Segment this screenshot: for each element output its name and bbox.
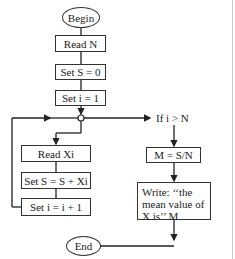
- write-output-box: Write: ‘‘the mean value of X is’’ M: [137, 182, 211, 220]
- accumulate-label: Set S = S + Xi: [24, 175, 87, 187]
- read-xi-box: Read Xi: [21, 145, 91, 162]
- accumulate-box: Set S = S + Xi: [21, 172, 91, 189]
- set-i-one-box: Set i = 1: [55, 90, 106, 106]
- begin-terminal: Begin: [62, 7, 100, 28]
- junction-node: [78, 115, 84, 121]
- read-n-label: Read N: [64, 38, 97, 50]
- compute-mean-label: M = S/N: [154, 149, 193, 161]
- decision-label: If i > N: [156, 112, 189, 124]
- end-label: End: [75, 240, 93, 252]
- read-xi-label: Read Xi: [38, 148, 74, 160]
- end-terminal: End: [66, 236, 101, 256]
- write-line-2: mean value of: [142, 198, 204, 210]
- write-line-1: Write: ‘‘the: [142, 186, 204, 198]
- set-s-zero-label: Set S = 0: [60, 66, 100, 78]
- set-i-one-label: Set i = 1: [62, 92, 99, 104]
- increment-box: Set i = i + 1: [21, 198, 91, 216]
- read-n-box: Read N: [55, 35, 106, 52]
- increment-label: Set i = i + 1: [30, 201, 82, 213]
- begin-label: Begin: [68, 12, 94, 24]
- write-line-3: X is’’ M: [142, 210, 204, 222]
- set-s-zero-box: Set S = 0: [55, 64, 106, 80]
- compute-mean-box: M = S/N: [146, 147, 201, 163]
